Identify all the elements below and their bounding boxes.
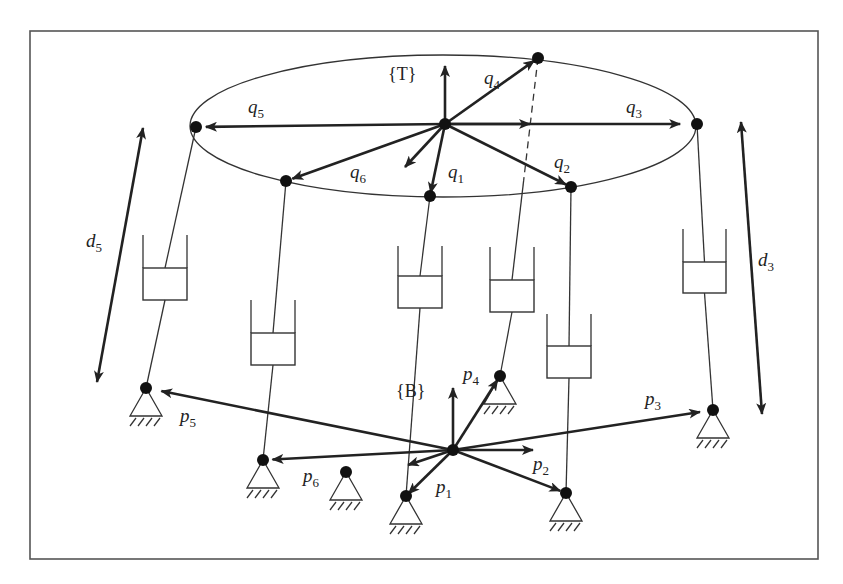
leg-5	[143, 127, 196, 388]
vector-q6	[292, 124, 445, 179]
joint-base-6	[257, 454, 269, 466]
vector-q5-label: q5	[248, 96, 264, 121]
joint-base-5	[140, 382, 152, 394]
frame-T-axes	[405, 66, 530, 167]
base-vectors	[161, 380, 700, 494]
leg-1-rod	[420, 196, 430, 276]
leg-3-rod	[697, 124, 705, 262]
actuator-cylinder	[143, 235, 187, 300]
joint-top-6	[280, 175, 292, 187]
vector-q2-label: q2	[554, 151, 570, 176]
actuator-cylinder	[251, 300, 295, 365]
vector-p5-label: p5	[178, 405, 196, 430]
frame-label-base: {B}	[396, 381, 425, 401]
vector-p1-label: p1	[434, 476, 452, 501]
frame-label-top: {T}	[388, 64, 416, 84]
frame-B-axes	[408, 388, 533, 465]
length-arrows	[97, 122, 762, 414]
leg-4-rod	[524, 58, 538, 180]
origin-B	[447, 444, 459, 456]
joint-extra	[340, 466, 352, 478]
vector-p3-label: p3	[643, 388, 661, 413]
vector-q3-label: q3	[626, 96, 642, 121]
vector-p6-label: p6	[301, 465, 320, 490]
leg-4	[490, 58, 538, 376]
leg-3	[683, 124, 726, 410]
length-d5-label: d5	[86, 230, 102, 255]
vector-q4-label: q4	[484, 67, 501, 92]
vector-p3	[453, 412, 700, 450]
leg-1-lower-rod	[406, 308, 420, 496]
leg-5-rod	[165, 127, 196, 268]
leg-2-rod	[569, 187, 571, 346]
vector-q5	[206, 124, 445, 127]
leg-3-lower-rod	[705, 293, 714, 410]
joint-base-1	[400, 490, 412, 502]
length-d3-label: d3	[758, 249, 774, 274]
joint-base-3	[707, 404, 719, 416]
leg-6	[251, 181, 295, 460]
vector-q1	[431, 124, 445, 193]
joint-top-3	[691, 118, 703, 130]
joint-top-5	[190, 121, 202, 133]
base-supports	[130, 376, 729, 534]
joint-base-2	[560, 487, 572, 499]
leg-2	[547, 187, 591, 493]
leg-5-lower-rod	[146, 300, 165, 388]
joint-top-4	[532, 52, 544, 64]
actuator-cylinder	[490, 247, 534, 312]
origin-T	[439, 118, 451, 130]
length-arrow-d5	[97, 128, 143, 382]
joint-top-1	[424, 190, 436, 202]
vector-p4	[453, 380, 498, 450]
leg-4-lower-rod	[500, 312, 512, 376]
vector-q1-label: q1	[448, 161, 464, 186]
leg-2-lower-rod	[566, 378, 569, 493]
actuator-cylinder	[398, 246, 442, 308]
vector-p2-label: p2	[531, 453, 549, 478]
joint-top-2	[565, 181, 577, 193]
leg-4-rod-lower	[512, 180, 524, 280]
joint-base-4	[494, 370, 506, 382]
leg-6-rod	[273, 181, 286, 333]
vector-p4-label: p4	[461, 363, 480, 388]
vector-q6-label: q6	[350, 161, 367, 186]
stewart-platform-diagram: q1q2q3q4q5q6p1p2p3p4p5p6d5d3 {T} {B}	[0, 0, 843, 584]
